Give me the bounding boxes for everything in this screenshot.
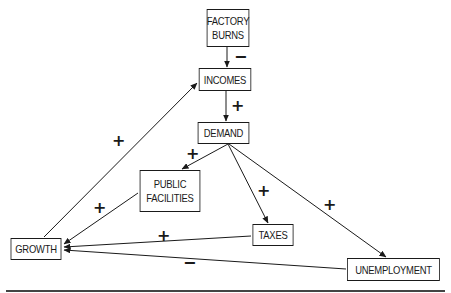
node-incomes: INCOMES <box>199 68 251 91</box>
sign-burns-incomes: − <box>234 49 247 65</box>
bottom-rule <box>6 290 445 292</box>
sign-demand-unemployment: + <box>323 197 336 213</box>
node-label: INCOMES <box>204 73 246 87</box>
node-label-line: PUBLIC <box>154 177 187 191</box>
node-public-facilities: PUBLIC FACILITIES <box>140 170 201 212</box>
node-label-line: FACTORY <box>207 14 249 28</box>
node-demand: DEMAND <box>198 122 250 144</box>
node-label: GROWTH <box>15 242 56 256</box>
node-factory-burns: FACTORY BURNS <box>207 9 250 47</box>
node-unemployment: UNEMPLOYMENT <box>347 258 440 281</box>
node-label: UNEMPLOYMENT <box>355 263 432 277</box>
sign-taxes-growth: + <box>157 228 170 244</box>
sign-public-growth: + <box>93 200 106 216</box>
node-label: DEMAND <box>204 126 243 140</box>
node-taxes: TAXES <box>253 224 294 246</box>
sign-incomes-demand: + <box>231 98 244 114</box>
edge-unemployment-to-growth <box>64 250 346 269</box>
node-label-line: FACILITIES <box>146 191 193 205</box>
sign-unemployment-growth: − <box>183 255 196 271</box>
causal-loop-diagram: FACTORY BURNS INCOMES DEMAND PUBLIC FACI… <box>0 0 451 293</box>
edge-growth-to-incomes <box>44 83 197 237</box>
sign-demand-public: + <box>186 146 199 162</box>
sign-growth-incomes: + <box>112 133 125 149</box>
sign-demand-taxes: + <box>257 183 270 199</box>
node-label-line: BURNS <box>212 28 244 42</box>
node-growth: GROWTH <box>11 238 62 260</box>
node-label: TAXES <box>258 228 287 242</box>
